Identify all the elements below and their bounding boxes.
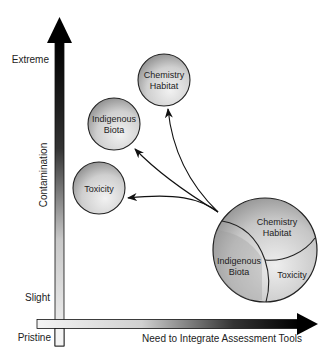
circle-indigenous-biota: Indigenous Biota <box>88 98 140 150</box>
integrated-circle: Chemistry Habitat Indigenous Biota Toxic… <box>213 198 317 302</box>
integrated-toxicity-label: Toxicity <box>277 270 307 280</box>
connector-arrows <box>128 109 218 212</box>
circle-chemistry-habitat: Chemistry Habitat <box>138 54 190 106</box>
integrated-chemistry-label-1: Chemistry <box>257 217 298 227</box>
x-axis-title: Need to Integrate Assessment Tools <box>142 333 302 344</box>
arrow-to-toxicity <box>128 196 218 212</box>
circle-chemistry-label-1: Chemistry <box>144 70 185 80</box>
circle-chemistry-label-2: Habitat <box>150 81 179 91</box>
circle-toxicity: Toxicity <box>73 162 125 214</box>
y-axis-mid-label: Slight <box>25 292 50 303</box>
circle-toxicity-label: Toxicity <box>84 184 114 194</box>
y-axis-title: Contamination <box>38 143 49 207</box>
integrated-biota-label-1: Indigenous <box>217 256 262 266</box>
y-axis-bottom-label: Pristine <box>18 332 52 343</box>
integrated-biota-label-2: Biota <box>229 267 250 277</box>
y-axis-top-label: Extreme <box>12 54 50 65</box>
diagram-canvas: Extreme Slight Pristine Contamination Ne… <box>0 0 334 359</box>
circle-biota-label-1: Indigenous <box>92 114 137 124</box>
circle-biota-label-2: Biota <box>104 125 125 135</box>
y-axis-arrow <box>47 17 72 346</box>
integrated-chemistry-label-2: Habitat <box>263 228 292 238</box>
arrow-to-indigenous-biota <box>135 149 218 212</box>
